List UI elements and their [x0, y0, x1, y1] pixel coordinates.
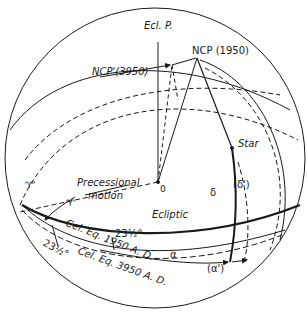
- vernal-equinox-prime-symbol: ♈': [25, 181, 36, 190]
- declination-label: δ: [210, 188, 216, 198]
- ncp-3950-label: NCP'(3950): [92, 67, 149, 77]
- right-ascension-prime-label: (α'): [207, 264, 224, 274]
- star-label: Star: [238, 139, 259, 149]
- precessional-motion-label-2: motion: [88, 191, 123, 201]
- sphere-outline: [5, 8, 305, 308]
- star-hour-circle: [230, 148, 236, 262]
- ecliptic-pole-label: Ecl. P.: [144, 21, 173, 31]
- right-ascension-label: α: [170, 250, 177, 260]
- precessional-motion-label-1: Precessional: [77, 178, 140, 188]
- vernal-equinox-symbol: ♈: [66, 199, 74, 208]
- diagram-lines: [0, 0, 307, 312]
- celestial-sphere-diagram: Ecl. P. NCP (1950) NCP'(3950) 0 Star Pre…: [0, 0, 307, 312]
- ncp-1950-label: NCP (1950): [192, 46, 249, 56]
- origin-label: 0: [160, 185, 166, 194]
- declination-prime-label: (δ'): [233, 180, 250, 190]
- ecliptic-label: Ecliptic: [152, 210, 188, 220]
